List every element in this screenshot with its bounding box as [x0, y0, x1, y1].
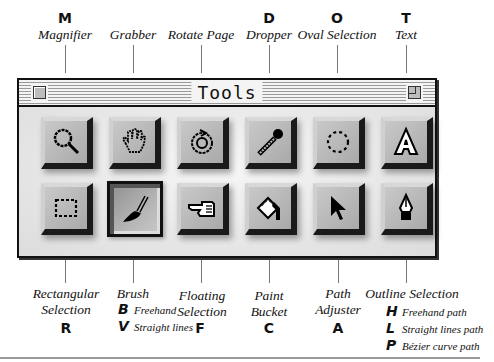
callout-line — [337, 45, 338, 73]
outline-mode-freehand-path: HFreehand path — [386, 304, 483, 319]
callout-line — [269, 45, 270, 73]
callout-line — [65, 260, 66, 283]
callout-line — [406, 45, 407, 73]
tools-palette-window: Tools — [17, 78, 437, 258]
paint-bucket-tool-button[interactable] — [245, 183, 297, 235]
brush-icon — [119, 193, 151, 225]
magnifier-shortcut: M — [15, 11, 115, 25]
oval-selection-tool-button[interactable] — [313, 117, 365, 169]
callout-line — [269, 260, 270, 283]
rectangular-selection-tool-button[interactable] — [41, 183, 93, 235]
outline-mode-bezier-curve-path: PBézier curve path — [386, 338, 483, 353]
callout-line — [201, 45, 202, 73]
text-icon — [390, 126, 422, 158]
path-adjuster-tool-button[interactable] — [313, 183, 365, 235]
tools-grid — [19, 107, 435, 256]
pointing-hand-icon — [186, 192, 218, 224]
rotate-icon — [186, 126, 218, 158]
outline-mode-straight-lines-path: LStraight lines path — [386, 321, 483, 336]
arrow-pointer-icon — [322, 192, 354, 224]
path-adjuster-shortcut: A — [288, 321, 388, 335]
paint-bucket-icon — [254, 192, 286, 224]
outline-selection-modes: HFreehand path LStraight lines path PBéz… — [386, 304, 483, 353]
pen-nib-icon — [390, 192, 422, 224]
magnifier-icon — [50, 126, 82, 158]
rectangle-selection-icon — [50, 192, 82, 224]
hand-icon — [118, 126, 150, 158]
window-title: Tools — [191, 82, 262, 103]
callout-line — [201, 260, 202, 283]
callout-line — [406, 260, 407, 283]
title-bar[interactable]: Tools — [19, 80, 435, 107]
outline-selection-label: Outline Selection — [342, 286, 482, 302]
magnifier-tool-button[interactable] — [41, 117, 93, 169]
floating-selection-tool-button[interactable] — [177, 183, 229, 235]
rotate-page-tool-button[interactable] — [177, 117, 229, 169]
callout-line — [133, 45, 134, 73]
dropper-tool-button[interactable] — [245, 117, 297, 169]
bottom-divider — [0, 357, 480, 359]
oval-selection-icon — [322, 126, 354, 158]
dropper-icon — [254, 126, 286, 158]
close-box-icon[interactable] — [33, 86, 46, 99]
rectangular-selection-shortcut: R — [16, 321, 116, 335]
callout-line — [338, 260, 339, 283]
brush-tool-button[interactable] — [107, 181, 163, 237]
text-label: Text — [351, 27, 461, 43]
grabber-tool-button[interactable] — [109, 117, 161, 169]
zoom-box-icon[interactable] — [408, 86, 421, 99]
text-shortcut: T — [356, 11, 456, 25]
callout-line — [65, 45, 66, 73]
text-tool-button[interactable] — [381, 117, 433, 169]
callout-line — [133, 260, 134, 283]
outline-selection-tool-button[interactable] — [381, 183, 433, 235]
